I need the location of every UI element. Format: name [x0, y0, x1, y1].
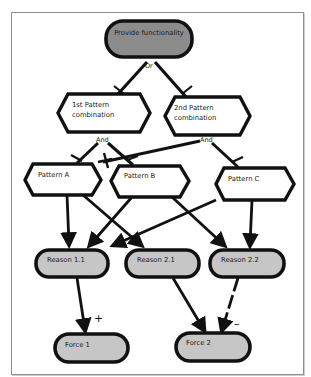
goal-label: Provide functionality: [114, 29, 184, 37]
combination-2-line2: combination: [174, 114, 216, 122]
combination-2-line1: 2nd Pattern: [174, 104, 214, 112]
and-label-2: And: [200, 136, 213, 144]
force-2-label: Force 2: [186, 339, 211, 347]
pattern-node-b[interactable]: Pattern B: [111, 166, 189, 197]
or-edges: [114, 62, 192, 97]
pattern-b-label: Pattern B: [124, 172, 156, 180]
combination-node-2[interactable]: 2nd Pattern combination: [165, 97, 250, 135]
combination-node-1[interactable]: 1st Pattern combination: [58, 94, 150, 132]
pattern-c-label: Pattern C: [228, 175, 260, 183]
pattern-reason-edges: [67, 195, 252, 245]
pattern-a-label: Pattern A: [38, 171, 70, 179]
force-node-1[interactable]: Force 1: [55, 334, 128, 362]
negative-contribution-label: –: [234, 317, 240, 330]
positive-contribution-label: +: [94, 312, 103, 325]
reason-2-1-label: Reason 2.1: [137, 256, 175, 264]
force-1-label: Force 1: [65, 341, 90, 349]
reason-node-2-1[interactable]: Reason 2.1: [126, 250, 199, 277]
pattern-node-a[interactable]: Pattern A: [25, 164, 101, 195]
combination-1-line2: combination: [72, 111, 114, 119]
combination-1-line1: 1st Pattern: [72, 101, 109, 109]
reason-node-2-2[interactable]: Reason 2.2: [210, 250, 284, 277]
and-edges: [71, 141, 243, 168]
and-label-1: And: [96, 136, 109, 144]
or-label: Or: [145, 62, 153, 70]
reason-node-1-1[interactable]: Reason 1.1: [36, 250, 108, 277]
force-node-2[interactable]: Force 2: [176, 333, 250, 361]
goal-node-provide-functionality[interactable]: Provide functionality: [106, 21, 192, 57]
goal-model-diagram: Or And And + – Provide functionality 1st…: [0, 0, 311, 377]
reason-2-2-label: Reason 2.2: [221, 256, 259, 264]
reason-1-1-label: Reason 1.1: [47, 256, 85, 264]
pattern-node-c[interactable]: Pattern C: [216, 168, 294, 200]
